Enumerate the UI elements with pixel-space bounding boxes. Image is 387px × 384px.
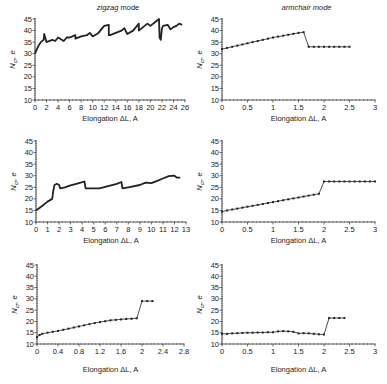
y-axis-label: Ncr, e: [8, 50, 18, 68]
x-tick-label: 2.5: [344, 103, 354, 112]
y-tick-label: 45: [211, 15, 219, 24]
title-mode-name: zigzag: [96, 3, 121, 12]
data-point: [231, 209, 233, 211]
y-tick-label: 40: [24, 26, 32, 35]
data-point: [313, 194, 315, 196]
data-point: [374, 181, 376, 183]
data-point: [39, 334, 41, 336]
data-point: [298, 32, 300, 34]
data-point: [247, 206, 249, 208]
data-point: [231, 46, 233, 48]
data-point: [104, 320, 106, 322]
y-axis-label: Ncr, e: [195, 295, 205, 313]
x-tick-label: 0.5: [242, 103, 252, 112]
x-tick-label: 0.5: [242, 347, 252, 356]
x-tick-label: 5: [92, 225, 96, 234]
x-tick-label: 0.5: [242, 225, 252, 234]
y-axis-label: Ncr, e: [195, 50, 205, 68]
data-point: [313, 333, 315, 335]
y-tick-label: 45: [26, 261, 34, 270]
data-point: [221, 333, 223, 335]
x-tick-label: 2.8: [179, 347, 189, 356]
data-point: [277, 200, 279, 202]
y-tick-label: 25: [211, 183, 219, 192]
x-tick-label: 2: [44, 103, 48, 112]
x-axis-label: Elongation ΔL, A: [271, 236, 326, 245]
y-tick-label: 35: [211, 38, 219, 47]
x-tick-label: 2: [322, 347, 326, 356]
y-tick-label: 45: [211, 137, 219, 146]
x-tick-label: 2.4: [158, 347, 168, 356]
x-tick-label: 12: [100, 103, 108, 112]
series-line-zigzag-3: [37, 301, 153, 337]
data-point: [323, 46, 325, 48]
data-point: [252, 41, 254, 43]
title-mode-word: mode: [121, 3, 140, 12]
data-point: [68, 328, 70, 330]
x-tick-label: 16: [123, 103, 131, 112]
data-point: [308, 46, 310, 48]
x-tick-label: 2.5: [344, 225, 354, 234]
y-tick-label: 10: [211, 96, 219, 105]
subplot-middle-left: 1015202530354045012345678910111213Elonga…: [9, 137, 190, 245]
y-tick-label: 20: [26, 317, 34, 326]
title-mode-name: armchair: [281, 3, 312, 12]
x-tick-label: 1: [271, 225, 275, 234]
subplot-top-right: 101520253035404500.511.522.53Elongation …: [195, 3, 377, 123]
subplot-title: zigzag mode: [96, 3, 140, 12]
data-point: [272, 201, 274, 203]
subplot-title: armchair mode: [281, 3, 331, 12]
y-tick-label: 40: [26, 272, 34, 281]
x-tick-label: 1: [271, 347, 275, 356]
data-point: [338, 317, 340, 319]
data-point: [282, 199, 284, 201]
y-tick-label: 30: [26, 294, 34, 303]
data-point: [292, 33, 294, 35]
y-tick-label: 20: [211, 317, 219, 326]
x-tick-label: 9: [138, 225, 142, 234]
y-tick-label: 40: [211, 26, 219, 35]
x-tick-label: 2: [140, 347, 144, 356]
y-tick-label: 30: [211, 171, 219, 180]
y-tick-label: 35: [25, 160, 33, 169]
x-tick-label: 6: [68, 103, 72, 112]
y-tick-label: 35: [211, 283, 219, 292]
data-point: [282, 35, 284, 37]
y-label-unit: , e: [195, 50, 204, 58]
x-tick-label: 7: [115, 225, 119, 234]
data-point: [328, 317, 330, 319]
x-tick-label: 1.6: [116, 347, 126, 356]
y-tick-label: 45: [25, 137, 33, 146]
y-tick-label: 25: [24, 61, 32, 70]
y-tick-label: 35: [26, 283, 34, 292]
data-point: [308, 195, 310, 197]
data-point: [236, 45, 238, 47]
y-tick-label: 15: [211, 206, 219, 215]
data-point: [241, 43, 243, 45]
x-tick-label: 0: [35, 347, 39, 356]
data-point: [287, 34, 289, 36]
y-tick-label: 10: [211, 340, 219, 349]
x-tick-label: 2: [57, 225, 61, 234]
x-axis-label: Elongation ΔL, A: [83, 236, 138, 245]
data-point: [83, 324, 85, 326]
y-tick-label: 20: [211, 72, 219, 81]
data-point: [292, 197, 294, 199]
data-point: [62, 329, 64, 331]
y-label-unit: , e: [10, 295, 19, 303]
x-tick-label: 1.5: [293, 225, 303, 234]
data-point: [267, 202, 269, 204]
x-tick-label: 24: [169, 103, 177, 112]
x-tick-label: 0: [220, 347, 224, 356]
data-point: [262, 203, 264, 205]
x-tick-label: 10: [147, 225, 155, 234]
x-tick-label: 0.4: [53, 347, 63, 356]
x-tick-label: 12: [170, 225, 178, 234]
x-tick-label: 3: [69, 225, 73, 234]
data-point: [303, 196, 305, 198]
data-point: [47, 332, 49, 334]
y-tick-label: 40: [211, 148, 219, 157]
y-tick-label: 40: [211, 272, 219, 281]
x-tick-label: 6: [103, 225, 107, 234]
data-point: [287, 198, 289, 200]
